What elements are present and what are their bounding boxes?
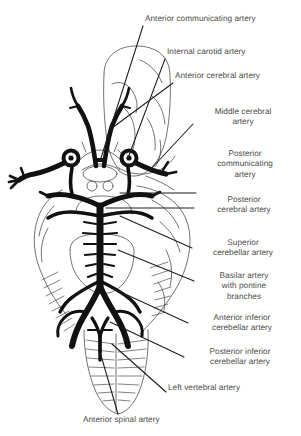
label-middle-cerebral-artery: Middle cerebral artery <box>195 107 291 128</box>
label-left-vertebral-artery: Left vertebral artery <box>168 383 294 393</box>
internal-carotid-lumen-left <box>68 155 73 160</box>
label-internal-carotid-artery: Internal carotid artery <box>167 47 297 57</box>
label-basilar-artery: Basilar artery with pontine branches <box>196 271 292 302</box>
label-anterior-inferior-cerebellar-artery: Anterior inferior cerebellar artery <box>190 313 294 334</box>
label-anterior-cerebral-artery: Anterior cerebral artery <box>175 71 297 81</box>
circle-of-willis-figure <box>0 0 301 436</box>
label-posterior-inferior-cerebellar-artery: Posterior inferior cerebellar artery <box>186 347 294 368</box>
label-posterior-cerebral-artery: Posterior cerebral artery <box>196 195 292 216</box>
label-anterior-communicating-artery: Anterior communicating artery <box>145 14 297 24</box>
label-superior-cerebellar-artery: Superior cerebellar artery <box>194 238 292 259</box>
posterior-communicating-artery-left <box>71 168 73 194</box>
posterior-communicating-artery-right <box>128 168 130 194</box>
label-anterior-spinal-artery: Anterior spinal artery <box>83 415 209 425</box>
mca-branch-right-1 <box>166 172 176 174</box>
label-posterior-communicating-artery: Posterior communicating artery <box>198 149 292 180</box>
